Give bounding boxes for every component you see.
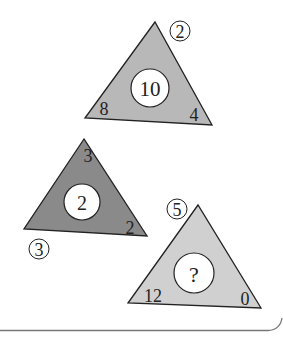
bottom-right-value: 2 <box>126 218 135 238</box>
bottom-right-value: 4 <box>190 105 199 125</box>
top-corner-value: 5 <box>173 200 182 220</box>
puzzle-diagram: 10 2 8 4 2 3 2 3 ? 5 12 0 <box>0 0 283 337</box>
center-value: ? <box>189 262 199 287</box>
triangle-top: 10 2 8 4 <box>85 21 212 125</box>
triangle-bottom: ? 5 12 0 <box>128 199 261 309</box>
bottom-left-value: 3 <box>35 240 44 260</box>
bottom-left-value: 8 <box>100 99 109 119</box>
bottom-right-value: 0 <box>241 289 250 309</box>
center-value: 2 <box>77 192 87 214</box>
top-corner-value: 3 <box>84 146 93 166</box>
triangle-middle: 2 3 2 3 <box>24 139 147 260</box>
bottom-left-value: 12 <box>144 286 162 306</box>
top-corner-value: 2 <box>176 22 185 42</box>
center-value: 10 <box>140 77 161 101</box>
panel-border <box>0 318 282 331</box>
